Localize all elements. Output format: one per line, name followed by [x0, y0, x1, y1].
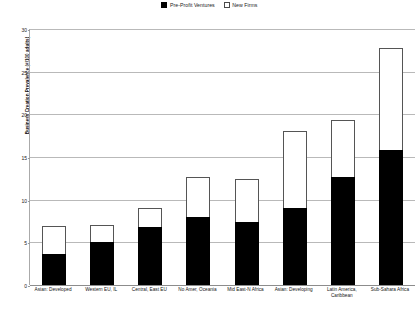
- y-tick-label-30: 30: [21, 27, 27, 33]
- bar-segment-new-firms[interactable]: [235, 179, 259, 222]
- bar-segment-pre-profit-ventures[interactable]: [331, 177, 355, 285]
- x-tick-label: Mid East-N Africa: [222, 287, 270, 293]
- x-tick-label: Latin America, Caribbean: [318, 287, 366, 299]
- stacked-bar[interactable]: [42, 226, 66, 285]
- gridline-0: 0: [30, 285, 415, 286]
- legend-swatch-hollow-icon: [224, 2, 230, 8]
- plot-area: 051015202530: [29, 29, 415, 285]
- stacked-bar[interactable]: [235, 179, 259, 285]
- bar-group[interactable]: [283, 29, 307, 285]
- x-tick-label: Asian: Developing: [270, 287, 318, 293]
- x-tick-label: No Amer, Oceania: [173, 287, 221, 293]
- x-tick-label: Western EU, IL: [77, 287, 125, 293]
- chart-container: Pre-Profit Ventures New Firms Business C…: [0, 0, 419, 312]
- chart-legend: Pre-Profit Ventures New Firms: [0, 2, 419, 8]
- legend-swatch-filled-icon: [161, 2, 167, 8]
- bar-group[interactable]: [186, 29, 210, 285]
- stacked-bar[interactable]: [90, 225, 114, 285]
- bar-segment-new-firms[interactable]: [138, 208, 162, 227]
- bar-group[interactable]: [379, 29, 403, 285]
- bar-segment-new-firms[interactable]: [331, 120, 355, 177]
- stacked-bar[interactable]: [331, 120, 355, 285]
- bar-segment-pre-profit-ventures[interactable]: [42, 254, 66, 285]
- y-tick-label-20: 20: [21, 112, 27, 118]
- x-axis-tick-labels: Asian: DevelopedWestern EU, ILCentral, E…: [29, 287, 414, 312]
- bar-segment-new-firms[interactable]: [283, 131, 307, 208]
- bar-segment-new-firms[interactable]: [379, 48, 403, 150]
- legend-item-pre-profit-ventures: Pre-Profit Ventures: [161, 2, 214, 8]
- bars-group: [30, 29, 415, 285]
- bar-segment-new-firms[interactable]: [90, 225, 114, 242]
- bar-segment-pre-profit-ventures[interactable]: [235, 222, 259, 285]
- y-tick-label-15: 15: [21, 155, 27, 161]
- bar-segment-pre-profit-ventures[interactable]: [90, 242, 114, 285]
- legend-label-pre-profit-ventures: Pre-Profit Ventures: [170, 2, 215, 8]
- y-tick-label-25: 25: [21, 70, 27, 76]
- bar-group[interactable]: [42, 29, 66, 285]
- stacked-bar[interactable]: [379, 48, 403, 285]
- bar-segment-new-firms[interactable]: [42, 226, 66, 254]
- legend-item-new-firms: New Firms: [224, 2, 258, 8]
- bar-group[interactable]: [90, 29, 114, 285]
- legend-label-new-firms: New Firms: [232, 2, 257, 8]
- bar-segment-pre-profit-ventures[interactable]: [379, 150, 403, 285]
- x-tick-label: Central, East EU: [125, 287, 173, 293]
- x-tick-label: Sub-Sahara Africa: [366, 287, 414, 293]
- x-tick-label: Asian: Developed: [29, 287, 77, 293]
- stacked-bar[interactable]: [138, 208, 162, 285]
- bar-segment-pre-profit-ventures[interactable]: [186, 217, 210, 285]
- bar-group[interactable]: [235, 29, 259, 285]
- bar-segment-pre-profit-ventures[interactable]: [138, 227, 162, 285]
- stacked-bar[interactable]: [186, 177, 210, 285]
- bar-segment-pre-profit-ventures[interactable]: [283, 208, 307, 285]
- y-tick-label-10: 10: [21, 198, 27, 204]
- stacked-bar[interactable]: [283, 131, 307, 285]
- bar-group[interactable]: [331, 29, 355, 285]
- bar-segment-new-firms[interactable]: [186, 177, 210, 217]
- bar-group[interactable]: [138, 29, 162, 285]
